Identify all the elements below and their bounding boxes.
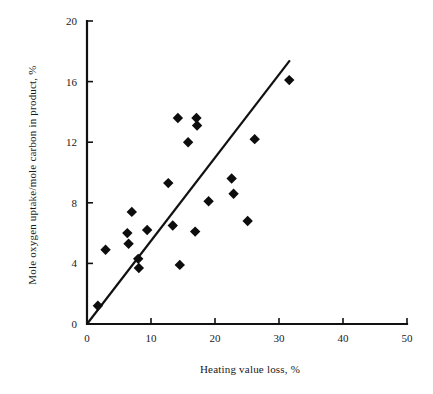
y-tick-label: 20 [66, 15, 78, 27]
y-tick-label: 0 [72, 318, 78, 330]
data-point [190, 226, 200, 236]
data-point [127, 207, 137, 217]
data-point [284, 75, 294, 85]
data-point [203, 196, 213, 206]
x-tick-label: 20 [210, 332, 222, 344]
data-point [93, 301, 103, 311]
axes-group [87, 21, 407, 324]
data-point [173, 113, 183, 123]
x-tick-label: 10 [146, 332, 158, 344]
x-tick-label: 0 [84, 332, 90, 344]
data-point [142, 225, 152, 235]
y-tick-label: 4 [72, 257, 78, 269]
fit-line [87, 60, 290, 324]
axis-spines [87, 21, 407, 324]
data-point [122, 228, 132, 238]
data-point [183, 137, 193, 147]
y-tick-label: 8 [72, 197, 78, 209]
data-point [134, 263, 144, 273]
regression-line [87, 60, 290, 324]
y-tick-label: 12 [66, 136, 77, 148]
data-point [163, 178, 173, 188]
x-tick-label: 30 [274, 332, 286, 344]
data-point [226, 173, 236, 183]
y-tick-label: 16 [66, 76, 78, 88]
y-axis-title: Mole oxygen uptake/mole carbon in produc… [26, 65, 38, 284]
data-point [249, 134, 259, 144]
x-axis-title: Heating value loss, % [200, 363, 300, 375]
chart-figure: 01020304050048121620 Heating value loss,… [0, 0, 433, 394]
data-point [168, 220, 178, 230]
scatter-plot: 01020304050048121620 Heating value loss,… [0, 0, 433, 394]
ticks-group [87, 21, 407, 324]
x-tick-label: 50 [402, 332, 414, 344]
data-point [123, 239, 133, 249]
data-point [100, 245, 110, 255]
x-tick-label: 40 [338, 332, 350, 344]
data-point [242, 216, 252, 226]
data-point [228, 189, 238, 199]
tick-labels-group: 01020304050048121620 [66, 15, 413, 344]
data-point [192, 120, 202, 130]
data-point [175, 260, 185, 270]
